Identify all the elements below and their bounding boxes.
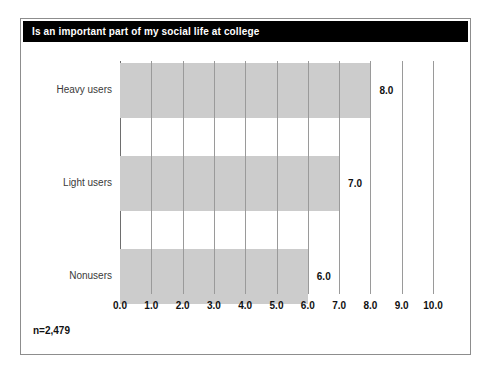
x-axis-tick-label: 10.0: [413, 300, 453, 311]
gridline: [214, 61, 215, 294]
category-label: Light users: [20, 177, 112, 188]
plot-area: Heavy users8.0Light users7.0Nonusers6.00…: [21, 19, 472, 356]
gridline: [277, 61, 278, 294]
category-label: Heavy users: [20, 84, 112, 95]
gridline: [151, 61, 152, 294]
category-label: Nonusers: [20, 270, 112, 281]
bar-value-label: 8.0: [379, 85, 393, 96]
chart-frame: Is an important part of my social life a…: [20, 18, 471, 355]
gridline: [183, 61, 184, 294]
gridline: [245, 61, 246, 294]
gridline: [433, 61, 434, 294]
sample-size-note: n=2,479: [33, 325, 70, 336]
bar-value-label: 6.0: [317, 271, 331, 282]
gridline: [339, 61, 340, 294]
gridline: [308, 61, 309, 294]
gridline: [370, 61, 371, 294]
bar-light-users: [120, 156, 339, 211]
bar-value-label: 7.0: [348, 178, 362, 189]
gridline: [402, 61, 403, 294]
